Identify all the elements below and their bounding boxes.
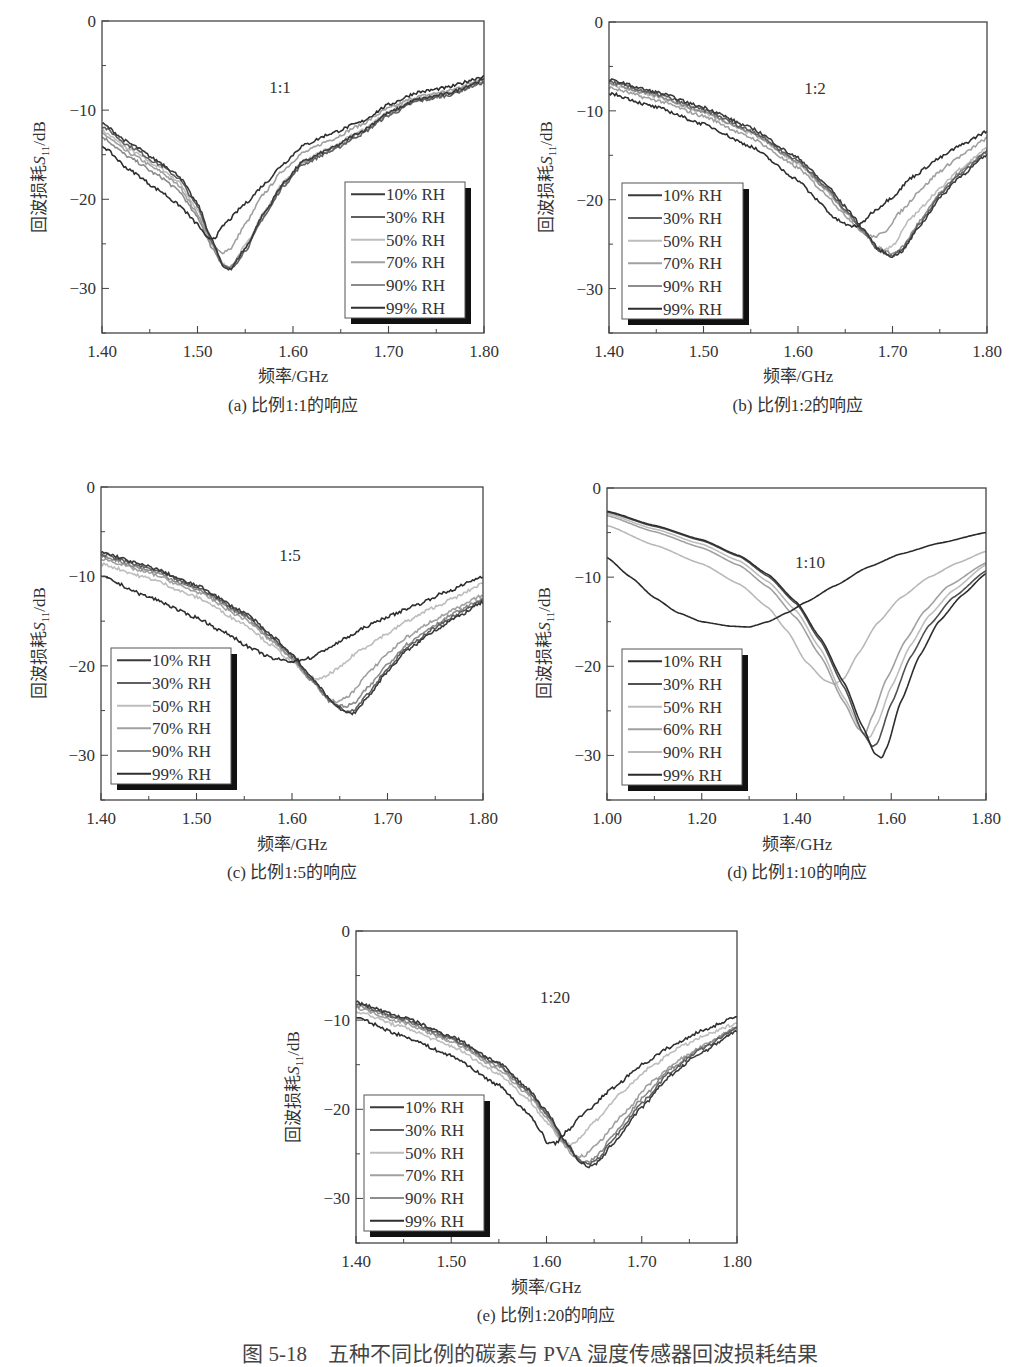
chart-panel-a: 1.401.501.601.701.800−10−20−301:1回波损耗S11… — [30, 12, 499, 415]
legend-entry: 99% RH — [386, 299, 445, 318]
x-tick-label: 1.80 — [722, 1252, 752, 1271]
series-line-99-rh — [607, 533, 986, 627]
legend-entry: 60% RH — [663, 720, 722, 739]
y-tick-label: −20 — [68, 657, 95, 676]
x-tick-label: 1.40 — [87, 342, 117, 361]
x-tick-label: 1.80 — [972, 342, 1002, 361]
legend: 10% RH30% RH50% RH70% RH90% RH99% RH — [111, 648, 237, 790]
x-tick-label: 1.60 — [278, 342, 308, 361]
legend-entry: 99% RH — [152, 765, 211, 784]
figure-caption: 图 5-18 五种不同比例的碳素与 PVA 湿度传感器回波损耗结果 — [230, 1337, 830, 1367]
legend: 10% RH30% RH50% RH60% RH90% RH99% RH — [622, 649, 748, 791]
x-tick-label: 1.70 — [374, 342, 404, 361]
legend-entry: 70% RH — [152, 719, 211, 738]
legend-entry: 30% RH — [386, 208, 445, 227]
legend-entry: 10% RH — [405, 1098, 464, 1117]
x-tick-label: 1.50 — [182, 809, 212, 828]
legend-entry: 90% RH — [152, 742, 211, 761]
y-tick-label: −10 — [69, 101, 96, 120]
legend: 10% RH30% RH50% RH70% RH90% RH99% RH — [622, 183, 749, 325]
x-tick-label: 1.00 — [592, 809, 622, 828]
x-axis-label: 频率/GHz — [763, 367, 834, 386]
legend-entry: 50% RH — [386, 231, 445, 250]
x-tick-label: 1.60 — [277, 809, 307, 828]
x-tick-label: 1.60 — [876, 809, 906, 828]
x-axis-label: 频率/GHz — [258, 367, 329, 386]
panel-caption: (d) 比例1:10的响应 — [727, 863, 866, 882]
y-tick-label: −30 — [69, 279, 96, 298]
x-axis-label: 频率/GHz — [257, 835, 328, 854]
x-tick-label: 1.80 — [469, 342, 499, 361]
y-tick-label: −10 — [68, 567, 95, 586]
y-axis-label: 回波损耗S11/dB — [535, 587, 556, 699]
x-tick-label: 1.70 — [373, 809, 403, 828]
legend-entry: 10% RH — [152, 651, 211, 670]
x-tick-label: 1.50 — [689, 342, 719, 361]
x-tick-label: 1.80 — [468, 809, 498, 828]
y-tick-label: −30 — [576, 280, 603, 299]
chart-panel-d: 1.001.201.401.601.800−10−20−301:10回波损耗S1… — [535, 479, 1001, 882]
y-axis-label: 回波损耗S11/dB — [284, 1031, 305, 1143]
legend-entry: 70% RH — [663, 254, 722, 273]
panel-caption: (b) 比例1:2的响应 — [733, 396, 864, 415]
chart-panel-e: 1.401.501.601.701.800−10−20−301:20回波损耗S1… — [284, 922, 752, 1325]
y-tick-label: 0 — [593, 479, 602, 498]
legend-entry: 99% RH — [405, 1212, 464, 1231]
legend-entry: 10% RH — [663, 652, 722, 671]
y-tick-label: −20 — [323, 1100, 350, 1119]
panel-caption: (e) 比例1:20的响应 — [477, 1306, 615, 1325]
legend-entry: 10% RH — [663, 186, 722, 205]
y-tick-label: −20 — [69, 190, 96, 209]
legend-entry: 90% RH — [405, 1189, 464, 1208]
x-tick-label: 1.60 — [783, 342, 813, 361]
ratio-label: 1:5 — [279, 546, 301, 565]
ratio-label: 1:20 — [540, 988, 570, 1007]
legend: 10% RH30% RH50% RH70% RH90% RH99% RH — [345, 182, 471, 324]
legend-entry: 30% RH — [663, 209, 722, 228]
x-tick-label: 1.70 — [627, 1252, 657, 1271]
y-tick-label: −30 — [323, 1189, 350, 1208]
legend-entry: 99% RH — [663, 300, 722, 319]
y-tick-label: 0 — [87, 478, 96, 497]
legend-entry: 99% RH — [663, 766, 722, 785]
y-tick-label: −10 — [323, 1011, 350, 1030]
y-tick-label: 0 — [88, 12, 97, 31]
x-tick-label: 1.50 — [436, 1252, 466, 1271]
legend-entry: 10% RH — [386, 185, 445, 204]
y-tick-label: −20 — [574, 657, 601, 676]
x-tick-label: 1.80 — [971, 809, 1001, 828]
x-tick-label: 1.40 — [782, 809, 812, 828]
panel-caption: (a) 比例1:1的响应 — [228, 396, 358, 415]
legend-entry: 50% RH — [663, 232, 722, 251]
legend-entry: 50% RH — [405, 1144, 464, 1163]
x-axis-label: 频率/GHz — [762, 835, 833, 854]
x-tick-label: 1.20 — [687, 809, 717, 828]
legend-entry: 70% RH — [386, 253, 445, 272]
panel-caption: (c) 比例1:5的响应 — [227, 863, 357, 882]
y-tick-label: 0 — [342, 922, 351, 941]
ratio-label: 1:2 — [804, 79, 826, 98]
x-tick-label: 1.40 — [341, 1252, 371, 1271]
y-tick-label: −10 — [574, 568, 601, 587]
x-tick-label: 1.40 — [594, 342, 624, 361]
ratio-label: 1:10 — [795, 553, 825, 572]
x-tick-label: 1.70 — [878, 342, 908, 361]
x-tick-label: 1.50 — [183, 342, 213, 361]
legend-entry: 90% RH — [663, 277, 722, 296]
legend-entry: 30% RH — [152, 674, 211, 693]
ratio-label: 1:1 — [269, 78, 291, 97]
y-axis-label: 回波损耗S11/dB — [30, 587, 51, 699]
chart-panel-b: 1.401.501.601.701.800−10−20−301:2回波损耗S11… — [537, 13, 1002, 415]
legend-entry: 30% RH — [405, 1121, 464, 1140]
y-axis-label: 回波损耗S11/dB — [537, 121, 558, 233]
legend-entry: 70% RH — [405, 1166, 464, 1185]
legend-entry: 90% RH — [663, 743, 722, 762]
y-tick-label: −10 — [576, 102, 603, 121]
x-tick-label: 1.60 — [532, 1252, 562, 1271]
chart-panel-c: 1.401.501.601.701.800−10−20−301:5回波损耗S11… — [30, 478, 498, 882]
y-tick-label: −20 — [576, 191, 603, 210]
legend-entry: 30% RH — [663, 675, 722, 694]
legend-entry: 50% RH — [663, 698, 722, 717]
x-tick-label: 1.40 — [86, 809, 116, 828]
